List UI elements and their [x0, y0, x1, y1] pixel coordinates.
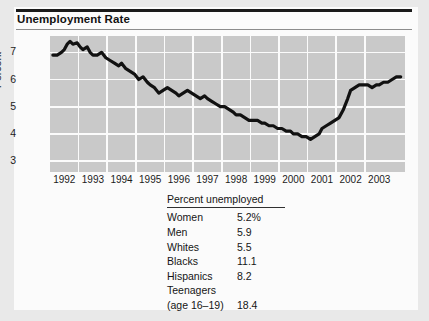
table-cell-value: 11.1: [237, 255, 281, 267]
table-header-rule: [167, 207, 285, 208]
figure-page: Unemployment Rate Percent 34567199219931…: [0, 0, 429, 321]
table-cell-label: Teenagers: [167, 284, 237, 296]
table-cell-value: 5.9: [237, 226, 281, 238]
y-axis-tick-label: 6: [0, 73, 16, 85]
table-row: Hispanics8.2: [167, 270, 285, 285]
table-row: Teenagers: [167, 284, 285, 299]
percent-unemployed-table: Percent unemployed Women5.2%Men5.9Whites…: [167, 193, 285, 314]
table-body: Women5.2%Men5.9Whites5.5Blacks11.1Hispan…: [167, 211, 285, 313]
table-row: Whites5.5: [167, 241, 285, 256]
table-cell-value: 5.5: [237, 241, 281, 253]
table-cell-label: Blacks: [167, 255, 237, 267]
y-axis-tick-label: 5: [0, 100, 16, 112]
table-cell-label: Women: [167, 211, 237, 223]
table-cell-value: 8.2: [237, 270, 281, 282]
table-row: (age 16–19)18.4: [167, 299, 285, 314]
unemployment-line-chart: Percent 34567199219931994199519961997199…: [0, 0, 429, 190]
table-row: Men5.9: [167, 226, 285, 241]
x-axis-tick-label: 2003: [359, 174, 399, 185]
table-cell-value: 18.4: [237, 299, 281, 311]
table-row: Blacks11.1: [167, 255, 285, 270]
table-header: Percent unemployed: [167, 193, 285, 207]
table-cell-label: Men: [167, 226, 237, 238]
table-cell-label: Hispanics: [167, 270, 237, 282]
table-row: Women5.2%: [167, 211, 285, 226]
table-cell-value: 5.2%: [237, 211, 281, 223]
table-cell-label: (age 16–19): [167, 299, 237, 311]
table-cell-label: Whites: [167, 241, 237, 253]
series-line-unemployment-rate: [50, 36, 405, 172]
y-axis-tick-label: 3: [0, 154, 16, 166]
y-axis-tick-label: 7: [0, 45, 16, 57]
y-axis-tick-label: 4: [0, 127, 16, 139]
